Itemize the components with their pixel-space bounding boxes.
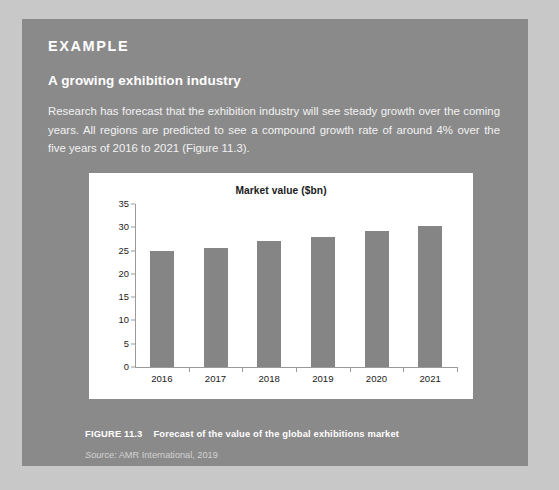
y-tick-label: 25 <box>119 246 129 255</box>
x-tick-mark <box>457 367 458 372</box>
x-tick-mark <box>242 367 243 372</box>
source-label: Source: <box>85 450 117 460</box>
x-tick-label: 2019 <box>312 374 333 384</box>
x-tick-label: 2017 <box>205 374 226 384</box>
y-tick-label: 15 <box>119 292 129 301</box>
y-tick-label: 5 <box>124 339 129 348</box>
bar-2020 <box>365 231 389 367</box>
panel-content: EXAMPLE A growing exhibition industry Re… <box>22 19 528 158</box>
bar-2017 <box>204 248 228 367</box>
example-heading: A growing exhibition industry <box>48 73 502 89</box>
x-tick-label: 2018 <box>258 374 279 384</box>
bar-2019 <box>311 237 335 367</box>
screenshot-root: EXAMPLE A growing exhibition industry Re… <box>0 0 559 490</box>
chart-card: Market value ($bn) 05101520253035 201620… <box>89 173 473 399</box>
figure-caption: FIGURE 11.3Forecast of the value of the … <box>85 428 399 439</box>
bar-series <box>135 204 457 367</box>
bar-2021 <box>418 226 442 367</box>
bar-2016 <box>150 251 174 367</box>
x-tick-label: 2016 <box>151 374 172 384</box>
y-axis-tick-labels: 05101520253035 <box>103 173 129 399</box>
bar-chart-plot: 05101520253035 201620172018201920202021 <box>89 173 473 399</box>
x-tick-mark <box>350 367 351 372</box>
y-tick-label: 10 <box>119 316 129 325</box>
y-tick-label: 20 <box>119 269 129 278</box>
example-body-text: Research has forecast that the exhibitio… <box>48 102 500 157</box>
source-text: AMR International, 2019 <box>119 450 218 460</box>
y-tick-label: 35 <box>119 199 129 208</box>
figure-source: Source: AMR International, 2019 <box>85 450 218 460</box>
x-tick-mark <box>189 367 190 372</box>
y-tick-label: 0 <box>124 362 129 371</box>
y-tick-label: 30 <box>119 223 129 232</box>
figure-caption-text: Forecast of the value of the global exhi… <box>153 428 399 439</box>
x-tick-label: 2020 <box>366 374 387 384</box>
bar-2018 <box>257 241 281 367</box>
x-tick-mark <box>296 367 297 372</box>
x-tick-mark <box>403 367 404 372</box>
figure-number: FIGURE 11.3 <box>85 428 142 439</box>
example-kicker-label: EXAMPLE <box>48 39 502 55</box>
x-tick-label: 2021 <box>419 374 440 384</box>
